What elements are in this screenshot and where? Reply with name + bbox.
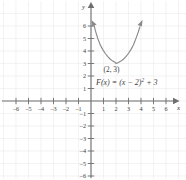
y-tick-label: 3: [83, 60, 86, 67]
y-tick-label: 5: [83, 35, 86, 42]
y-tick-label: –6: [79, 172, 86, 179]
y-tick-label: 6: [83, 22, 86, 29]
curve-arrow-right-icon: [138, 20, 143, 27]
y-tick-label: –3: [79, 135, 86, 142]
curve-arrow-left-icon: [91, 20, 96, 27]
coordinate-plane: –6 –5 –4 –3 –2 –1 1 2 3 4 5 6 1 2 3 4 5 …: [0, 0, 186, 180]
y-tick-label: 4: [83, 47, 86, 54]
x-tick-label: –5: [24, 105, 31, 112]
equation-tail: + 3: [144, 78, 157, 87]
x-tick-label: –4: [37, 105, 44, 112]
x-axis-tick-labels: –6 –5 –4 –3 –2 –1 1 2 3 4 5 6: [12, 105, 168, 112]
x-tick-label: 2: [114, 105, 117, 112]
x-tick-label: –2: [62, 105, 69, 112]
equation-main: F(x) = (x − 2): [95, 78, 142, 87]
x-tick-label: 3: [127, 105, 130, 112]
x-tick-label: 4: [139, 105, 142, 112]
y-axis-label: y: [81, 3, 86, 11]
x-tick-label: 6: [164, 105, 167, 112]
y-tick-label: 2: [83, 72, 86, 79]
y-tick-label: –1: [79, 110, 86, 117]
graph-figure: –6 –5 –4 –3 –2 –1 1 2 3 4 5 6 1 2 3 4 5 …: [0, 0, 186, 180]
x-tick-label: –6: [12, 105, 19, 112]
parabola-series: [91, 20, 142, 64]
x-tick-label: 1: [102, 105, 105, 112]
y-tick-label: –2: [79, 122, 86, 129]
x-tick-label: 5: [152, 105, 155, 112]
y-axis: [88, 2, 95, 178]
x-tick-label: –3: [49, 105, 56, 112]
x-axis-label: x: [176, 104, 181, 112]
vertex-point-label: (2, 3): [104, 65, 121, 74]
y-tick-label: 1: [83, 85, 86, 92]
function-equation-label: F(x) = (x − 2)2 + 3: [95, 77, 158, 87]
y-tick-label: –4: [79, 147, 86, 154]
y-tick-label: –5: [79, 160, 86, 167]
grid-lines: [0, 1, 186, 179]
parabola-curve: [94, 25, 140, 63]
y-axis-arrow-icon: [88, 2, 95, 8]
